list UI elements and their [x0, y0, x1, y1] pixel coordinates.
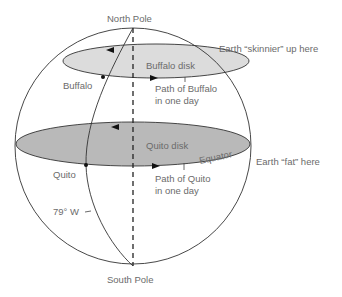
longitude-leader [85, 211, 91, 212]
buffalo-label: Buffalo [63, 80, 92, 91]
quito-dot [84, 163, 88, 167]
earth-rotation-diagram: North Pole South Pole Earth “skinnier” u… [0, 0, 342, 297]
earth-skinnier-label: Earth “skinnier” up here [219, 43, 318, 54]
path-quito-label-1: Path of Quito [155, 173, 210, 184]
quito-label: Quito [53, 169, 76, 180]
quito-disk-label: Quito disk [146, 140, 188, 151]
earth-fat-label: Earth “fat” here [256, 156, 320, 167]
path-buffalo-label-1: Path of Buffalo [155, 83, 217, 94]
north-pole-label: North Pole [107, 13, 152, 24]
south-pole-label: South Pole [107, 274, 153, 285]
longitude-label: 79° W [53, 206, 79, 217]
buffalo-disk-label: Buffalo disk [146, 60, 195, 71]
buffalo-dot [101, 75, 105, 79]
path-quito-label-2: in one day [155, 185, 199, 196]
path-buffalo-label-2: in one day [155, 95, 199, 106]
